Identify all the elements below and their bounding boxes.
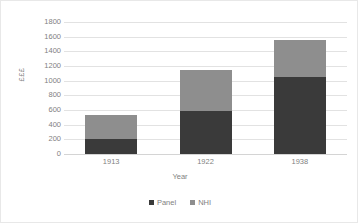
bar-segment-panel[interactable] bbox=[180, 111, 232, 154]
axis-baseline bbox=[64, 154, 347, 155]
legend-label: NHI bbox=[198, 199, 211, 207]
y-axis-tick-label: 0 bbox=[21, 150, 61, 158]
square-marker-dark-icon bbox=[149, 200, 154, 205]
y-axis-tick-label: 800 bbox=[21, 92, 61, 100]
stacked-bar-chart: £££ 180016001400120010008006004002000 19… bbox=[0, 0, 358, 223]
y-axis-tick-label: 1400 bbox=[21, 48, 61, 56]
x-axis-title: Year bbox=[1, 173, 358, 181]
gridline bbox=[64, 22, 347, 23]
bar-1913[interactable] bbox=[85, 115, 137, 154]
x-axis-tick-label: 1922 bbox=[171, 158, 241, 166]
bar-segment-nhi[interactable] bbox=[85, 115, 137, 138]
legend-item-nhi[interactable]: NHI bbox=[190, 199, 211, 207]
bar-segment-panel[interactable] bbox=[274, 77, 326, 154]
bar-1922[interactable] bbox=[180, 70, 232, 154]
y-axis-tick-label: 600 bbox=[21, 106, 61, 114]
y-axis-tick-label: 200 bbox=[21, 136, 61, 144]
gridline bbox=[64, 37, 347, 38]
x-axis-tick-label: 1913 bbox=[76, 158, 146, 166]
legend-label: Panel bbox=[157, 199, 176, 207]
bar-1938[interactable] bbox=[274, 40, 326, 154]
y-axis-tick-label: 1000 bbox=[21, 77, 61, 85]
legend-item-panel[interactable]: Panel bbox=[149, 199, 176, 207]
y-axis-tick-labels: 180016001400120010008006004002000 bbox=[19, 22, 61, 154]
bar-segment-panel[interactable] bbox=[85, 139, 137, 154]
y-axis-tick-label: 1800 bbox=[21, 18, 61, 26]
plot-area bbox=[64, 22, 347, 154]
y-axis-tick-label: 1200 bbox=[21, 62, 61, 70]
bar-segment-nhi[interactable] bbox=[180, 70, 232, 111]
bar-segment-nhi[interactable] bbox=[274, 40, 326, 77]
x-axis-tick-label: 1938 bbox=[265, 158, 335, 166]
y-axis-tick-label: 1600 bbox=[21, 33, 61, 41]
square-marker-light-icon bbox=[190, 200, 195, 205]
chart-legend: PanelNHI bbox=[1, 199, 358, 207]
x-axis-tick-labels: 191319221938 bbox=[64, 158, 347, 170]
y-axis-tick-label: 400 bbox=[21, 121, 61, 129]
